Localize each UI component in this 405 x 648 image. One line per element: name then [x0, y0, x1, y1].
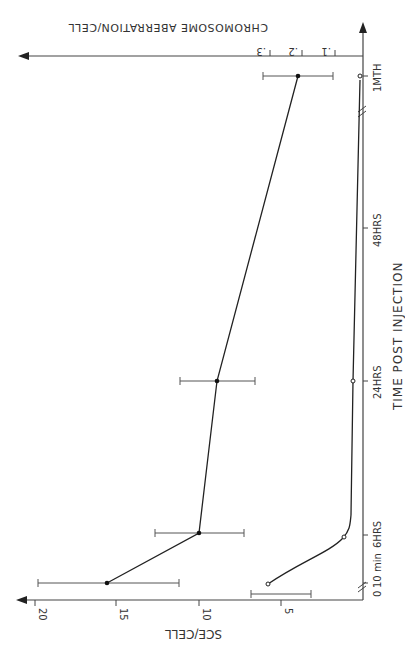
- ca-axis-title: CHROMOSOME ABERRATION/CELL: [68, 21, 268, 34]
- time-axis-arrow-icon: [359, 22, 367, 33]
- sce-point: [197, 531, 202, 536]
- x-tick-1mth: 1MTH: [372, 63, 383, 92]
- sce-tick-10: 10: [201, 608, 212, 621]
- sce-tick-5: 5: [283, 608, 294, 614]
- ca-series: [251, 74, 362, 598]
- ca-point: [266, 582, 270, 586]
- sce-point: [215, 379, 220, 384]
- sce-chromosome-chart: 0 10 min 6HRS 24HRS 48HRS 1MTH TIME POST…: [0, 0, 405, 648]
- x-tick-0: 0: [372, 591, 383, 597]
- ca-axis: .1 .2 .3 CHROMOSOME ABERRATION/CELL: [18, 21, 363, 60]
- sce-series: [38, 72, 333, 587]
- sce-axis: 5 10 15 20 SCE/CELL: [16, 596, 363, 641]
- x-tick-10min: 10 min: [372, 553, 383, 588]
- x-tick-24hrs: 24HRS: [372, 365, 383, 399]
- sce-tick-20: 20: [37, 608, 48, 621]
- time-axis: 0 10 min 6HRS 24HRS 48HRS 1MTH TIME POST…: [358, 22, 405, 600]
- x-axis-title: TIME POST INJECTION: [391, 262, 405, 411]
- ca-tick-0.3: .3: [256, 46, 266, 57]
- sce-tick-15: 15: [118, 608, 129, 621]
- ca-tick-0.2: .2: [288, 46, 298, 57]
- ca-axis-arrow-icon: [18, 52, 29, 60]
- ca-error-bars: [251, 590, 311, 598]
- ca-point: [342, 535, 346, 539]
- sce-axis-title: SCE/CELL: [165, 627, 222, 641]
- sce-error-bars: [38, 72, 333, 587]
- ca-tick-0.1: .1: [321, 46, 331, 57]
- x-tick-48hrs: 48HRS: [372, 213, 383, 247]
- ca-point: [351, 379, 355, 383]
- sce-point: [105, 581, 110, 586]
- ca-point: [358, 74, 362, 78]
- sce-point: [296, 74, 301, 79]
- x-tick-6hrs: 6HRS: [372, 521, 383, 548]
- sce-axis-arrow-icon: [16, 596, 27, 604]
